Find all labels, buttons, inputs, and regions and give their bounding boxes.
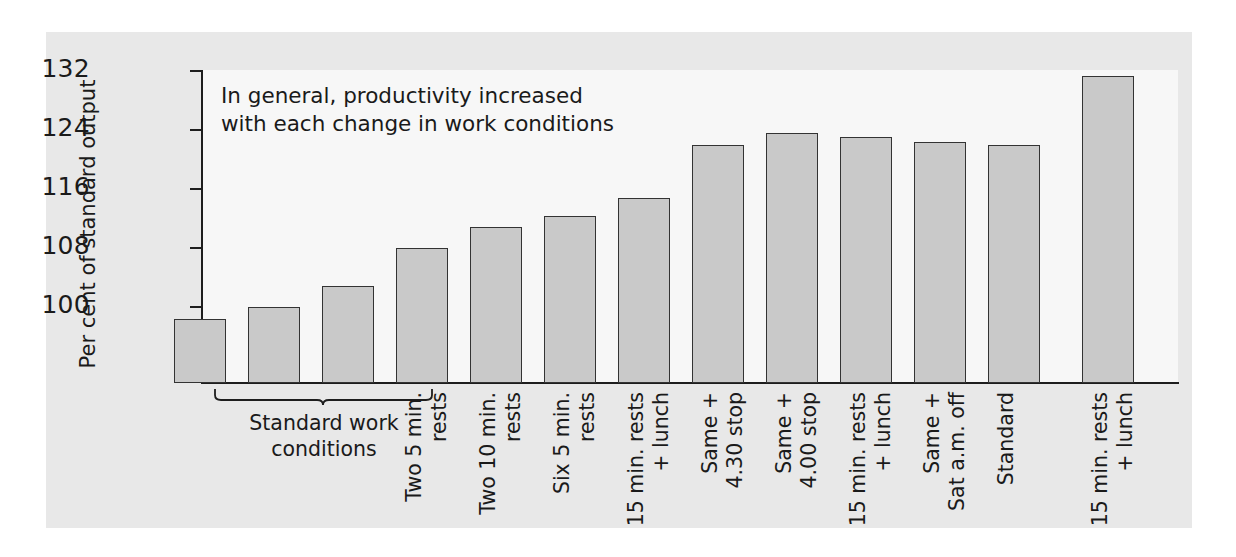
x-tick-label-15-min-rests-lunch-3: 15 min. rests + lunch (1088, 392, 1138, 557)
bar-12 (988, 145, 1040, 383)
annotation-line-1: In general, productivity increased (221, 82, 741, 110)
x-tick-label-15-min-rests-lunch-1: 15 min. rests + lunch (624, 392, 674, 557)
group-brace-label: Standard work conditions (214, 410, 434, 462)
x-tick-label-same-430-stop: Same + 4.30 stop (698, 392, 748, 557)
x-tick-label-two-5-min-rests: Two 5 min. rests (402, 392, 452, 557)
group-brace (214, 388, 434, 406)
bar-5 (470, 227, 522, 383)
y-axis-title: Per cent of standard output (76, 74, 100, 374)
y-tick-mark (190, 70, 201, 72)
bar-11 (914, 142, 966, 383)
bar-1 (174, 319, 226, 383)
x-tick-label-two-10-min-rests: Two 10 min. rests (476, 392, 526, 557)
bar-9 (766, 133, 818, 383)
bar-2 (248, 307, 300, 383)
bar-10 (840, 137, 892, 383)
bar-13 (1082, 76, 1134, 383)
chart-annotation: In general, productivity increased with … (221, 82, 741, 138)
chart-figure: 132 124 116 108 100 Per cent of standard… (46, 32, 1192, 528)
y-tick-mark (190, 129, 201, 131)
y-tick-mark (190, 188, 201, 190)
x-tick-label-same-sat-am-off: Same + Sat a.m. off (920, 392, 970, 557)
x-tick-label-six-5-min-rests: Six 5 min. rests (550, 392, 600, 557)
bar-4 (396, 248, 448, 383)
x-tick-label-same-400-stop: Same + 4.00 stop (772, 392, 822, 557)
bar-3 (322, 286, 374, 383)
x-tick-label-standard: Standard (994, 392, 1019, 557)
bar-7 (618, 198, 670, 383)
x-tick-label-15-min-rests-lunch-2: 15 min. rests + lunch (846, 392, 896, 557)
annotation-line-2: with each change in work conditions (221, 110, 741, 138)
y-tick-mark (190, 306, 201, 308)
bar-8 (692, 145, 744, 383)
bar-6 (544, 216, 596, 383)
y-tick-mark (190, 247, 201, 249)
